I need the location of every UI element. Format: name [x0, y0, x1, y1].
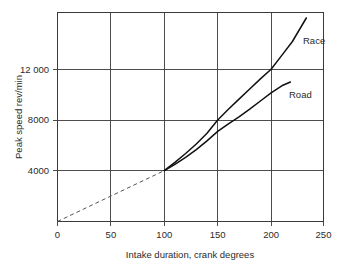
xtick-label-200: 200 — [263, 229, 279, 240]
y-tick-marks — [53, 69, 58, 170]
x-tick-marks — [58, 222, 324, 227]
xtick-label-0: 0 — [55, 229, 60, 240]
xtick-label-100: 100 — [156, 229, 172, 240]
series-race-line — [164, 18, 306, 171]
x-axis-title: Intake duration, crank degrees — [126, 249, 255, 260]
ytick-label-12000: 12 000 — [20, 64, 49, 75]
ytick-label-8000: 8000 — [28, 114, 49, 125]
chart-figure: 4000 8000 12 000 0 50 100 150 200 250 In… — [0, 0, 342, 274]
ytick-label-4000: 4000 — [28, 165, 49, 176]
series-label-race: Race — [303, 35, 325, 46]
peak-speed-vs-intake-duration-chart: 4000 8000 12 000 0 50 100 150 200 250 In… — [0, 0, 342, 274]
y-axis-title: Peak speed rev/min — [13, 75, 24, 159]
xtick-label-150: 150 — [210, 229, 226, 240]
xtick-label-50: 50 — [106, 229, 117, 240]
xtick-label-250: 250 — [316, 229, 332, 240]
vertical-gridlines — [111, 13, 271, 222]
plot-frame — [58, 13, 324, 222]
series-label-road: Road — [289, 89, 312, 100]
